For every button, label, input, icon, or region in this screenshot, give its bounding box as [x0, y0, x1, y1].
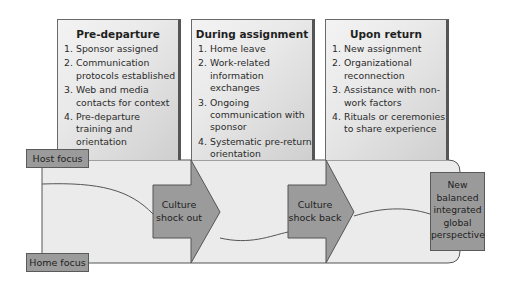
list-item: 4.Rituals or ceremonies to share experie…	[332, 111, 446, 136]
item-text: Communication protocols established	[76, 57, 178, 82]
item-text: Ongoing communication with sponsor	[210, 97, 312, 134]
item-text: Pre-departure training and orientation	[76, 111, 178, 148]
phase-upon-return: Upon return 1.New assignment 2.Organizat…	[325, 19, 449, 160]
item-number: 2.	[198, 57, 210, 94]
home-focus-label: Home focus	[26, 253, 89, 272]
phase-title: Upon return	[326, 28, 446, 40]
list-item: 4.Pre-departure training and orientation	[64, 111, 178, 148]
list-item: 3.Web and media contacts for context	[64, 84, 178, 109]
phase-pre-departure: Pre-departure 1.Sponsor assigned 2.Commu…	[57, 19, 181, 160]
outcome-line: global	[431, 217, 484, 230]
label-line: shock back	[286, 211, 344, 224]
host-focus-label: Host focus	[26, 149, 89, 168]
item-number: 1.	[64, 43, 76, 55]
item-text: Web and media contacts for context	[76, 84, 178, 109]
list-item: 1.Sponsor assigned	[64, 43, 178, 55]
item-text: Systematic pre-return orientation	[210, 136, 312, 161]
item-number: 3.	[198, 97, 210, 134]
focus-band	[42, 160, 460, 263]
outcome-line: New	[431, 179, 484, 192]
item-number: 4.	[64, 111, 76, 148]
item-text: Organizational reconnection	[344, 57, 446, 82]
outcome-box: New balanced integrated global perspecti…	[430, 172, 485, 251]
list-item: 1.Home leave	[198, 43, 312, 55]
item-number: 2.	[64, 57, 76, 82]
list-item: 1.New assignment	[332, 43, 446, 55]
item-text: New assignment	[344, 43, 446, 55]
list-item: 3.Assistance with non-work factors	[332, 84, 446, 109]
culture-shock-out-label: Culture shock out	[153, 198, 205, 224]
item-number: 3.	[64, 84, 76, 109]
item-number: 1.	[332, 43, 344, 55]
item-number: 4.	[198, 136, 210, 161]
label-line: Culture	[153, 198, 205, 211]
label-line: shock out	[153, 211, 205, 224]
list-item: 2.Organizational reconnection	[332, 57, 446, 82]
list-item: 3.Ongoing communication with sponsor	[198, 97, 312, 134]
outcome-line: perspective	[431, 229, 484, 242]
item-text: Sponsor assigned	[76, 43, 178, 55]
list-item: 2.Communication protocols established	[64, 57, 178, 82]
phase-title: Pre-departure	[58, 28, 178, 40]
phase-title: During assignment	[192, 28, 312, 40]
phase-during-assignment: During assignment 1.Home leave 2.Work-re…	[191, 19, 315, 160]
item-text: Assistance with non-work factors	[344, 84, 446, 109]
outcome-line: integrated	[431, 204, 484, 217]
item-number: 3.	[332, 84, 344, 109]
item-text: Rituals or ceremonies to share experienc…	[344, 111, 446, 136]
item-text: Home leave	[210, 43, 312, 55]
label-line: Culture	[286, 198, 344, 211]
item-number: 4.	[332, 111, 344, 136]
item-number: 2.	[332, 57, 344, 82]
item-number: 1.	[198, 43, 210, 55]
list-item: 4.Systematic pre-return orientation	[198, 136, 312, 161]
outcome-line: balanced	[431, 192, 484, 205]
culture-shock-back-label: Culture shock back	[286, 198, 344, 224]
item-text: Work-related information exchanges	[210, 57, 312, 94]
list-item: 2.Work-related information exchanges	[198, 57, 312, 94]
